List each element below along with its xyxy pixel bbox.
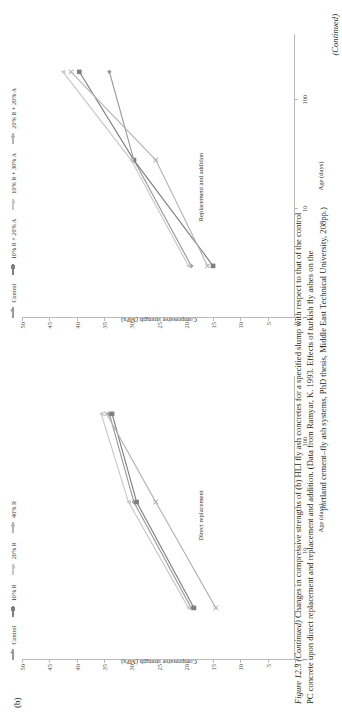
legend-marker-triangle-icon [12, 200, 15, 204]
legend-label: 10% R + 30% A [10, 153, 17, 194]
y-axis-tick-mark [77, 660, 78, 663]
y-axis-tick-label: 10 [237, 322, 244, 338]
legend-marker-diamond-icon [11, 650, 16, 655]
series-20-r-20-a [69, 70, 210, 269]
y-axis-tick-label: 40 [73, 664, 80, 680]
caption-line-1: Changes in compressive strengths of (b) … [293, 213, 303, 618]
y-axis-tick-mark [131, 660, 132, 663]
series-control [107, 70, 194, 269]
y-axis-tick-label: 20 [182, 664, 189, 680]
caption-line-3: portland cement–fly ash systems, PhD the… [317, 14, 329, 704]
y-axis-tick-label: 20 [182, 322, 189, 338]
legend-marker-cross-icon [11, 135, 14, 138]
legend-marker-triangle-icon [12, 565, 15, 569]
legend-item-0: Control [10, 284, 17, 318]
chart-legend-replacement-and-addition: Control10% R + 20% A10% R + 30% A20% R +… [6, 30, 20, 318]
y-axis-tick-mark [22, 318, 23, 321]
y-axis-tick-mark [49, 318, 50, 321]
legend-marker-diamond-icon [11, 308, 16, 313]
y-axis-tick-mark [213, 318, 214, 321]
figure-continued-prefix: (Continued) [293, 620, 303, 662]
y-axis-tick-label: 10 [237, 664, 244, 680]
y-axis-tick-label: 45 [46, 322, 53, 338]
y-axis-tick-mark [159, 660, 160, 663]
y-axis-tick-mark [104, 660, 105, 663]
legend-marker-square-icon [11, 607, 14, 610]
series-layer [22, 376, 295, 660]
y-axis-tick-label: 15 [210, 322, 217, 338]
plot-area-direct-replacement: Compressive strength (MPa) Age (days) Di… [22, 376, 295, 660]
series-10-r-30-a [61, 70, 191, 269]
legend-item-3: 40% R [10, 501, 17, 533]
y-axis-tick-label: 30 [128, 664, 135, 680]
y-axis-tick-mark [22, 660, 23, 663]
y-axis-tick-label: 5 [264, 322, 271, 338]
caption-line-2: PC concrete upon direct replacement and … [304, 14, 316, 704]
figure-caption: Figure 12.3 (Continued) Changes in compr… [292, 14, 342, 704]
legend-label: 20% R + 20% A [10, 88, 17, 129]
legend-label: 40% R [10, 501, 17, 518]
legend-item-3: 20% R + 20% A [10, 88, 17, 144]
plot-area-replacement-and-addition: Compressive strength (MPa) Age (days) Re… [22, 34, 295, 318]
legend-item-2: 20% R [10, 542, 17, 575]
legend-item-1: 10% R [10, 584, 17, 616]
chart-replacement-and-addition: Control10% R + 20% A10% R + 30% A20% R +… [0, 26, 339, 356]
y-axis-tick-label: 25 [155, 664, 162, 680]
y-axis-tick-label: 25 [155, 322, 162, 338]
y-axis-tick-mark [213, 660, 214, 663]
chart-direct-replacement: Control10% R20% R40% R Compressive stren… [0, 368, 339, 698]
legend-marker-cross-icon [11, 524, 14, 527]
y-axis-tick-mark [104, 318, 105, 321]
y-axis-tick-label: 15 [210, 664, 217, 680]
y-axis-tick-label: 45 [46, 664, 53, 680]
figure-number: Figure 12.3 [293, 664, 303, 704]
series-layer [22, 34, 295, 318]
legend-item-2: 10% R + 30% A [10, 153, 17, 210]
panel-tag-b: (b) [12, 698, 22, 709]
y-axis-tick-mark [268, 660, 269, 663]
y-axis-tick-mark [240, 660, 241, 663]
y-axis-tick-mark [186, 660, 187, 663]
series-40-r [104, 412, 218, 611]
legend-marker-square-icon [11, 265, 14, 268]
legend-label: 10% R [10, 584, 17, 601]
y-axis-tick-mark [186, 318, 187, 321]
caption-continued-tail: (Continued) [329, 14, 341, 704]
legend-label: 10% R + 20% A [10, 219, 17, 260]
y-axis-tick-label: 50 [19, 664, 26, 680]
y-axis-tick-mark [159, 318, 160, 321]
y-axis-tick-label: 35 [100, 664, 107, 680]
y-axis-tick-label: 30 [128, 322, 135, 338]
y-axis-tick-label: 35 [100, 322, 107, 338]
series-10-r [110, 412, 197, 611]
legend-label: Control [10, 626, 17, 645]
y-axis-tick-label: 50 [19, 322, 26, 338]
y-axis-tick-label: 40 [73, 322, 80, 338]
legend-label: 20% R [10, 542, 17, 559]
y-axis-tick-mark [131, 318, 132, 321]
y-axis-tick-mark [49, 660, 50, 663]
legend-label: Control [10, 284, 17, 303]
chart-legend-direct-replacement: Control10% R20% R40% R [6, 372, 20, 660]
y-axis-tick-mark [268, 318, 269, 321]
legend-item-1: 10% R + 20% A [10, 219, 17, 275]
y-axis-tick-label: 5 [264, 664, 271, 680]
y-axis-tick-mark [240, 318, 241, 321]
y-axis-tick-mark [77, 318, 78, 321]
legend-item-0: Control [10, 626, 17, 660]
